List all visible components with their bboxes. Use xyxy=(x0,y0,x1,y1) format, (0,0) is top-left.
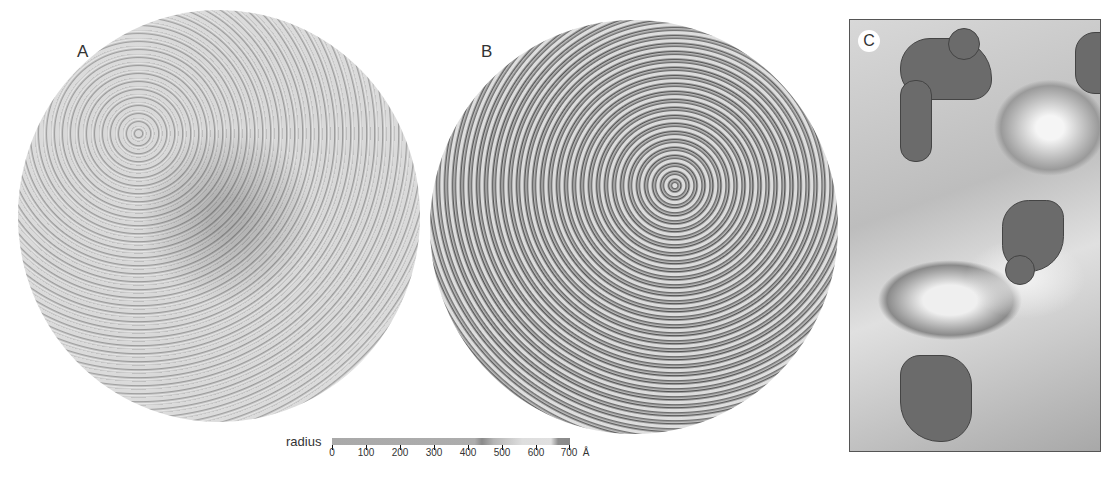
panel-label-c: C xyxy=(858,30,880,52)
unit-label: Å xyxy=(583,447,590,458)
panel-label-b: B xyxy=(481,42,492,62)
density-blob xyxy=(1005,255,1035,285)
tick-label: 300 xyxy=(426,447,443,458)
tick-label: 200 xyxy=(392,447,409,458)
tick-label: 100 xyxy=(358,447,375,458)
colorbar-gradient xyxy=(332,438,570,445)
density-blob xyxy=(1075,32,1101,94)
capsid-render-b xyxy=(430,20,838,434)
panel-c-closeup: C xyxy=(849,19,1101,452)
tick-label: 500 xyxy=(494,447,511,458)
tick-label: 700 xyxy=(561,447,578,458)
density-blob xyxy=(900,355,972,442)
capsid-render-a xyxy=(18,10,420,422)
density-blob xyxy=(900,80,932,162)
radius-colorbar: radius 0 100 200 300 400 500 600 700 Å xyxy=(286,434,606,474)
panel-label-a: A xyxy=(77,42,88,62)
density-blob xyxy=(948,28,980,60)
tick-label: 0 xyxy=(329,447,335,458)
colorbar-title: radius xyxy=(286,434,321,449)
tick-label: 400 xyxy=(460,447,477,458)
tick-label: 600 xyxy=(528,447,545,458)
